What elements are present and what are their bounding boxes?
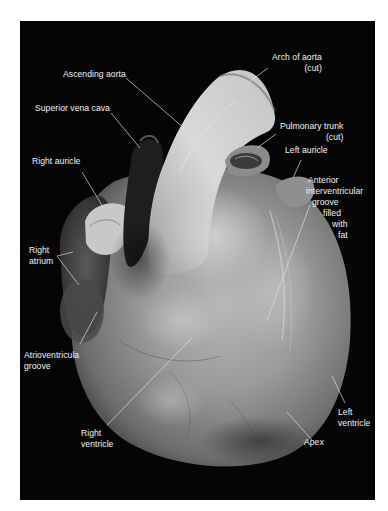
heart-anatomy-figure: Arch of aorta (cut) Ascending aorta Supe… <box>20 21 375 500</box>
label-right-auricle: Right auricle <box>32 156 80 167</box>
label-pulmonary-trunk: Pulmonary trunk (cut) <box>280 121 343 143</box>
label-superior-vena-cava: Superior vena cava <box>35 103 110 114</box>
label-atrioventricular-groove: Atrioventricula groove <box>24 350 79 372</box>
label-apex: Apex <box>304 437 324 448</box>
label-right-atrium: Right atrium <box>29 245 53 267</box>
heart-photograph <box>20 21 375 500</box>
label-anterior-interventricular-groove: Anterior interventricular groove filled … <box>306 175 363 241</box>
label-arch-of-aorta: Arch of aorta (cut) <box>272 52 322 74</box>
label-left-auricle: Left auricle <box>285 145 328 156</box>
label-left-ventricle: Left ventricle <box>338 407 370 429</box>
label-right-ventricle: Right ventricle <box>81 428 113 450</box>
label-ascending-aorta: Ascending aorta <box>63 69 126 80</box>
